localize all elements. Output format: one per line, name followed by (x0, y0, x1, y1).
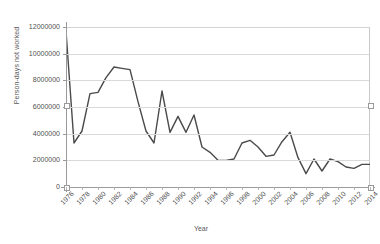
x-tick-mark (66, 187, 67, 190)
plot-right-cap-marker (368, 103, 374, 109)
x-tick-mark (82, 187, 83, 190)
y-tick-label: 10000000 (0, 50, 60, 57)
x-tick-mark (354, 187, 355, 190)
y-axis-cap-marker (64, 103, 70, 109)
x-axis-title: Year (0, 225, 380, 232)
gridline (66, 107, 369, 108)
x-tick-mark (306, 187, 307, 190)
x-tick-mark (226, 187, 227, 190)
x-tick-mark (274, 187, 275, 190)
y-tick-label: 12000000 (0, 23, 60, 30)
x-tick-mark (194, 187, 195, 190)
y-tick-label: 6000000 (0, 103, 60, 110)
series-line-strikes (66, 31, 370, 174)
plot-area (66, 27, 370, 187)
y-tick-label: 4000000 (0, 130, 60, 137)
y-tick-label: 0 (0, 183, 60, 190)
y-tick-label: 2000000 (0, 156, 60, 163)
x-tick-mark (178, 187, 179, 190)
x-tick-mark (242, 187, 243, 190)
x-axis-line (61, 187, 375, 188)
gridline (66, 80, 369, 81)
x-tick-mark (290, 187, 291, 190)
x-tick-mark (130, 187, 131, 190)
y-tick-label: 8000000 (0, 76, 60, 83)
x-tick-mark (98, 187, 99, 190)
gridline (66, 160, 369, 161)
x-tick-mark (146, 187, 147, 190)
x-tick-mark (258, 187, 259, 190)
plot-top-border (66, 27, 369, 28)
x-tick-mark (322, 187, 323, 190)
line-chart: Person-days not worked 02000000400000060… (0, 0, 380, 244)
x-tick-mark (370, 187, 371, 190)
x-tick-mark (162, 187, 163, 190)
x-tick-mark (114, 187, 115, 190)
gridline (66, 134, 369, 135)
x-tick-mark (210, 187, 211, 190)
x-tick-mark (338, 187, 339, 190)
gridline (66, 54, 369, 55)
